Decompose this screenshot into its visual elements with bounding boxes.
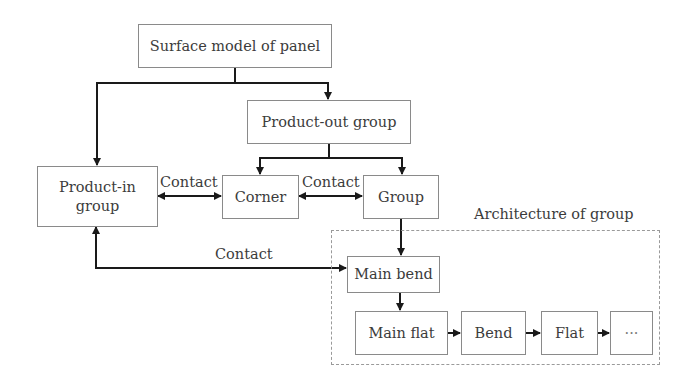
node-group: Group — [363, 175, 439, 219]
node-product-in-group: Product-in group — [37, 166, 158, 227]
edge-label-contact-productin-mainbend: Contact — [215, 246, 273, 262]
node-flat: Flat — [541, 311, 598, 355]
edge-label-contact-productin-corner: Contact — [160, 174, 218, 190]
edge-label-contact-corner-group: Contact — [302, 174, 360, 190]
node-ellipsis: ··· — [610, 311, 653, 355]
node-main-bend: Main bend — [347, 256, 440, 293]
node-product-out-group: Product-out group — [247, 100, 411, 144]
architecture-of-group-title: Architecture of group — [474, 206, 634, 222]
node-bend: Bend — [461, 311, 526, 355]
node-corner: Corner — [222, 175, 299, 219]
node-main-flat: Main flat — [355, 311, 448, 355]
node-surface-model: Surface model of panel — [138, 24, 332, 68]
